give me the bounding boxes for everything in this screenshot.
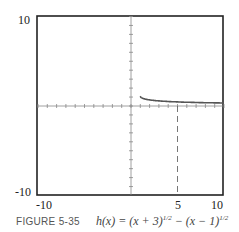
plot-frame bbox=[37, 16, 223, 195]
eq-part1: h(x) = (x + 3) bbox=[96, 214, 163, 228]
y-label-top: 10 bbox=[18, 14, 30, 26]
y-label-bottom: -10 bbox=[15, 186, 31, 198]
function-curve bbox=[140, 96, 224, 103]
x-label-left: -10 bbox=[36, 199, 52, 211]
eq-part2: − (x − 1) bbox=[172, 214, 220, 228]
figure-equation: h(x) = (x + 3)1/2 − (x − 1)1/2 bbox=[96, 214, 228, 228]
figure-caption: FIGURE 5-35h(x) = (x + 3)1/2 − (x − 1)1/… bbox=[16, 214, 228, 229]
figure-number: FIGURE 5-35 bbox=[16, 216, 80, 227]
x-label-mid: 5 bbox=[175, 199, 181, 211]
eq-exp2: 1/2 bbox=[219, 214, 228, 222]
x-label-right: 10 bbox=[211, 199, 223, 211]
eq-exp1: 1/2 bbox=[163, 214, 172, 222]
